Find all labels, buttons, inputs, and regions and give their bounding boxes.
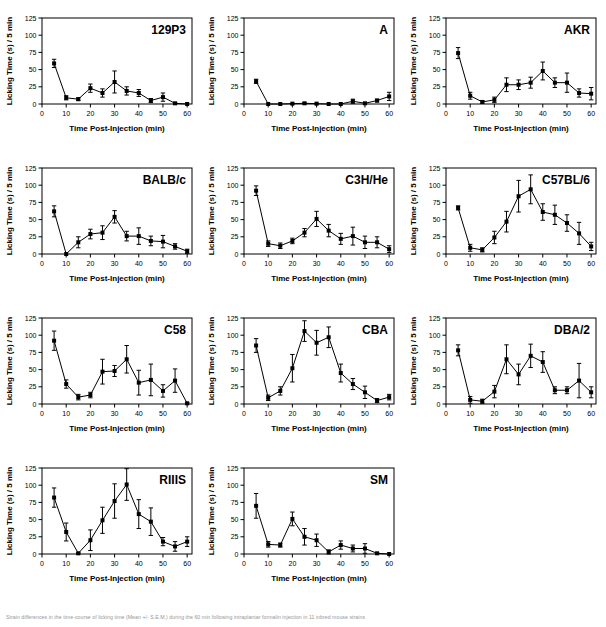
data-point-marker bbox=[351, 99, 355, 103]
x-tick-label: 40 bbox=[135, 410, 143, 417]
x-tick-label: 40 bbox=[539, 110, 547, 117]
x-tick-label: 10 bbox=[62, 560, 70, 567]
y-tick-label: 75 bbox=[231, 49, 239, 56]
data-point-marker bbox=[565, 81, 569, 85]
data-point-marker bbox=[149, 99, 153, 103]
data-point-marker bbox=[88, 86, 92, 90]
data-point-marker bbox=[387, 552, 391, 556]
y-tick-label: 75 bbox=[29, 49, 37, 56]
data-point-marker bbox=[173, 544, 177, 548]
data-point-marker bbox=[266, 102, 270, 106]
x-tick-label: 20 bbox=[288, 260, 296, 267]
data-point-marker bbox=[363, 390, 367, 394]
chart-panel-a: 02550751001250102030405060Time Post-Inje… bbox=[202, 0, 404, 150]
data-point-marker bbox=[113, 215, 117, 219]
data-point-marker bbox=[64, 382, 68, 386]
data-point-marker bbox=[504, 83, 508, 87]
y-tick-label: 25 bbox=[231, 533, 239, 540]
data-point-marker bbox=[254, 189, 258, 193]
x-tick-label: 30 bbox=[111, 410, 119, 417]
plot-frame bbox=[244, 18, 394, 104]
y-axis-label: Licking Time (s) / 5 min bbox=[5, 317, 14, 405]
data-point-marker bbox=[266, 542, 270, 546]
data-point-marker bbox=[529, 187, 533, 191]
x-axis-label: Time Post-Injection (min) bbox=[69, 274, 165, 283]
data-point-marker bbox=[375, 399, 379, 403]
data-point-marker bbox=[351, 382, 355, 386]
data-point-marker bbox=[149, 520, 153, 524]
x-tick-label: 20 bbox=[86, 410, 94, 417]
figure-caption-strip: Strain differences in the time-course of… bbox=[0, 612, 606, 627]
data-point-marker bbox=[113, 499, 117, 503]
x-tick-label: 30 bbox=[313, 410, 321, 417]
data-point-marker bbox=[480, 248, 484, 252]
x-tick-label: 40 bbox=[337, 260, 345, 267]
data-point-marker bbox=[541, 69, 545, 73]
chart-panel-riiis: 02550751001250102030405060Time Post-Inje… bbox=[0, 450, 202, 600]
y-tick-label: 25 bbox=[29, 233, 37, 240]
y-tick-label: 25 bbox=[29, 533, 37, 540]
data-point-marker bbox=[185, 401, 189, 405]
x-tick-label: 10 bbox=[264, 110, 272, 117]
x-tick-label: 30 bbox=[313, 560, 321, 567]
y-tick-label: 100 bbox=[25, 332, 37, 339]
data-point-marker bbox=[315, 217, 319, 221]
y-tick-label: 0 bbox=[235, 251, 239, 258]
y-axis-label: Licking Time (s) / 5 min bbox=[5, 467, 14, 555]
data-point-marker bbox=[363, 547, 367, 551]
data-point-marker bbox=[529, 81, 533, 85]
data-point-marker bbox=[52, 339, 56, 343]
y-tick-label: 50 bbox=[29, 66, 37, 73]
data-point-marker bbox=[363, 240, 367, 244]
x-tick-label: 10 bbox=[264, 560, 272, 567]
y-tick-label: 125 bbox=[25, 15, 37, 22]
x-tick-label: 30 bbox=[111, 560, 119, 567]
y-tick-label: 100 bbox=[227, 182, 239, 189]
y-tick-label: 125 bbox=[25, 165, 37, 172]
data-point-marker bbox=[589, 244, 593, 248]
panel-title: RIIIS bbox=[159, 473, 186, 487]
data-point-marker bbox=[468, 398, 472, 402]
x-tick-label: 0 bbox=[40, 410, 44, 417]
data-point-marker bbox=[125, 357, 129, 361]
data-point-marker bbox=[100, 370, 104, 374]
x-tick-label: 40 bbox=[135, 260, 143, 267]
x-tick-label: 0 bbox=[242, 110, 246, 117]
data-point-marker bbox=[529, 354, 533, 358]
y-axis-label: Licking Time (s) / 5 min bbox=[207, 167, 216, 255]
data-point-marker bbox=[456, 51, 460, 55]
y-tick-label: 0 bbox=[33, 551, 37, 558]
panel-title: C3H/He bbox=[345, 173, 388, 187]
data-point-marker bbox=[64, 530, 68, 534]
y-axis-label: Licking Time (s) / 5 min bbox=[207, 17, 216, 105]
x-tick-label: 50 bbox=[563, 410, 571, 417]
data-series-line bbox=[54, 341, 187, 404]
data-point-marker bbox=[541, 360, 545, 364]
data-point-marker bbox=[137, 234, 141, 238]
x-tick-label: 10 bbox=[466, 410, 474, 417]
data-point-marker bbox=[161, 95, 165, 99]
chart-panel-c57bl-6: 02550751001250102030405060Time Post-Inje… bbox=[404, 150, 606, 300]
data-point-marker bbox=[327, 102, 331, 106]
x-axis-label: Time Post-Injection (min) bbox=[271, 574, 367, 583]
y-tick-label: 75 bbox=[433, 199, 441, 206]
chart-panel-c58: 02550751001250102030405060Time Post-Inje… bbox=[0, 300, 202, 450]
data-point-marker bbox=[88, 393, 92, 397]
data-point-marker bbox=[278, 389, 282, 393]
data-point-marker bbox=[553, 388, 557, 392]
data-point-marker bbox=[504, 220, 508, 224]
x-tick-label: 50 bbox=[361, 260, 369, 267]
y-tick-label: 25 bbox=[433, 383, 441, 390]
data-point-marker bbox=[161, 389, 165, 393]
y-axis-label: Licking Time (s) / 5 min bbox=[207, 467, 216, 555]
y-tick-label: 100 bbox=[227, 32, 239, 39]
data-point-marker bbox=[100, 91, 104, 95]
x-tick-label: 20 bbox=[288, 110, 296, 117]
data-point-marker bbox=[315, 102, 319, 106]
x-tick-label: 0 bbox=[242, 260, 246, 267]
data-point-marker bbox=[52, 61, 56, 65]
y-tick-label: 100 bbox=[429, 182, 441, 189]
x-tick-label: 60 bbox=[385, 410, 393, 417]
data-point-marker bbox=[302, 231, 306, 235]
data-point-marker bbox=[565, 221, 569, 225]
